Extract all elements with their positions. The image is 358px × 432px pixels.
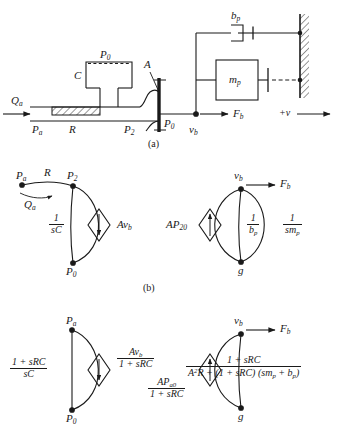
node-label-g-c: g — [238, 411, 244, 422]
branch-label-mechanical-c: 1 + sRC A2R + (1 + sRC) (smp + bp) — [186, 355, 301, 379]
node-label-vb-c: vb — [234, 315, 243, 328]
label-area: A — [144, 59, 151, 70]
node-label-vb-b: vb — [234, 170, 243, 183]
branch-label-impedance-c: 1 + sRC sC — [10, 357, 47, 379]
node-label-p0-b: P0 — [66, 266, 76, 279]
label-velocity: vb — [189, 124, 198, 137]
label-mass: mp — [229, 74, 241, 87]
branch-label-source-ap20-b: AP20 — [166, 219, 187, 232]
fraction-numerator: Avb — [117, 347, 154, 358]
fraction-denominator: sC — [49, 224, 64, 236]
label-chamber-pressure: P0 — [100, 49, 110, 62]
node-label-pa-b: Pa — [16, 170, 26, 183]
fraction-numerator: 1 — [283, 213, 302, 224]
fraction-numerator: 1 — [247, 213, 259, 224]
node-label-pa-c: Pa — [66, 315, 76, 328]
figure-root: Qa Pa R C P0 A P2 P0 vb Fb bp mp +v (a) … — [0, 0, 358, 432]
caption-b: (b) — [143, 283, 155, 293]
label-supply-flow: Qa — [11, 95, 23, 108]
label-chamber: C — [74, 70, 81, 81]
label-downstream-pressure: P2 — [124, 124, 134, 137]
label-force: Fb — [233, 108, 243, 121]
branch-label-source-avb-b: Avb — [117, 219, 132, 232]
branch-label-capacitance-b: 1 sC — [49, 213, 64, 235]
label-positive-direction: +v — [279, 108, 290, 118]
branch-label-damping-b: 1 bp — [247, 213, 259, 236]
fraction-denominator: 1 + sRC — [148, 388, 185, 400]
label-supply-pressure: Pa — [32, 124, 42, 137]
fraction-numerator: APa0 — [148, 377, 185, 388]
caption-a: (a) — [148, 139, 159, 149]
fraction-denominator: smp — [283, 224, 302, 236]
label-outlet-pressure: P0 — [164, 118, 174, 131]
branch-label-qa-b: Qa — [24, 199, 36, 212]
branch-label-source-apa0-c: APa0 1 + sRC — [148, 377, 185, 400]
node-label-g-b: g — [238, 265, 244, 276]
branch-label-source-avb-c: Avb 1 + sRC — [117, 347, 154, 370]
fraction-numerator: 1 — [49, 213, 64, 224]
fraction-denominator: sC — [10, 368, 47, 380]
node-label-p2-b: P2 — [67, 170, 77, 183]
label-damper: bp — [231, 10, 240, 23]
branch-label-force-b: Fb — [280, 178, 290, 191]
label-resistance: R — [69, 124, 76, 135]
fraction-numerator: 1 + sRC — [10, 357, 47, 368]
branch-label-force-c: Fb — [280, 323, 290, 336]
branch-label-inertia-b: 1 smp — [283, 213, 302, 236]
fraction-denominator: bp — [247, 224, 259, 236]
fraction-denominator: 1 + sRC — [117, 358, 154, 370]
node-label-p0-c: P0 — [66, 413, 76, 426]
branch-label-R-b: R — [44, 167, 51, 178]
fraction-numerator: 1 + sRC — [186, 355, 301, 366]
fraction-denominator: A2R + (1 + sRC) (smp + bp) — [186, 366, 301, 379]
